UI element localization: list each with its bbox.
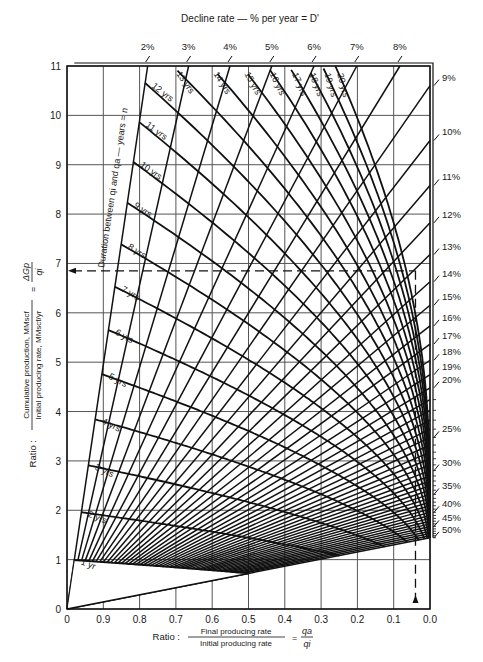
rate-tick (434, 431, 439, 437)
duration-label-12: 12 yrs (150, 81, 176, 104)
y-axis-title-prefix: Ratio : (27, 440, 38, 467)
y-tick-label: 0 (55, 604, 61, 615)
rate-tick (355, 56, 359, 62)
rate-label-50: 50% (442, 524, 462, 535)
rate-label-20: 20% (442, 374, 462, 385)
rate-tick (270, 56, 274, 62)
y-tick-label: 8 (55, 209, 61, 220)
duration-curve-5yr (102, 374, 419, 540)
rate-tick (434, 299, 439, 305)
rate-label-40: 40% (442, 498, 462, 509)
rate-label-18: 18% (442, 346, 462, 357)
rate-tick (434, 179, 439, 185)
y-tick-label: 5 (55, 357, 61, 368)
top-axis-title: Decline rate — % per year = D' (181, 13, 319, 24)
rate-tick (146, 56, 150, 62)
arrow-up-icon (412, 595, 418, 603)
rate-tick (398, 56, 402, 62)
rate-label-19: 19% (442, 361, 462, 372)
rate-label-6: 6% (307, 41, 321, 52)
x-axis-symbol-den: qi (303, 639, 311, 649)
rate-tick (434, 320, 439, 326)
rate-label-5: 5% (265, 41, 279, 52)
x-tick-label: 0.1 (387, 614, 401, 625)
y-tick-label: 9 (55, 160, 61, 171)
rate-label-12: 12% (442, 209, 462, 220)
rate-label-8: 8% (393, 41, 407, 52)
x-tick-label: 0.8 (133, 614, 147, 625)
rate-label-3: 3% (182, 41, 196, 52)
y-axis-symbol-num: ΔGp (21, 263, 31, 282)
duration-curve-12yr (145, 83, 430, 538)
rate-label-17: 17% (442, 330, 462, 341)
duration-curve-4yr (95, 419, 407, 542)
decline-nomograph-chart: 0123456789101100.90.80.70.60.50.40.30.20… (0, 0, 483, 662)
rate-tick (434, 249, 439, 255)
x-tick-label: 0.6 (205, 614, 219, 625)
rate-tick (434, 382, 439, 388)
x-axis-title-denominator: Initial producing rate (200, 639, 273, 648)
x-axis-symbol-num: qa (302, 626, 312, 636)
duration-label-9: 9 yrs (132, 200, 154, 219)
decline-ray-7pct (92, 66, 356, 561)
rate-tick (187, 56, 191, 62)
x-tick-label: 0 (64, 614, 70, 625)
x-tick-label: 0.7 (169, 614, 183, 625)
x-axis-equals: = (292, 633, 297, 643)
y-tick-label: 10 (50, 110, 62, 121)
chart-canvas: 0123456789101100.90.80.70.60.50.40.30.20… (0, 0, 483, 662)
duration-label-11: 11 yrs (144, 120, 170, 143)
rate-tick (434, 338, 439, 344)
y-tick-label: 4 (55, 407, 61, 418)
duration-label-13: 13 yrs (174, 69, 197, 95)
arrow-left-icon (68, 268, 76, 274)
rate-label-4: 4% (223, 41, 237, 52)
rate-label-15: 15% (442, 291, 462, 302)
duration-label-15: 15 yrs (242, 70, 263, 97)
duration-label-14: 14 yrs (211, 70, 233, 97)
rate-tick (434, 488, 439, 494)
x-tick-label: 0.5 (242, 614, 256, 625)
rate-label-9: 9% (442, 72, 456, 83)
rate-label-2: 2% (141, 41, 155, 52)
y-axis-symbol-den: qi (34, 268, 44, 276)
duration-label-10: 10 yrs (138, 159, 164, 182)
decline-ray-2pct (67, 66, 148, 609)
rate-tick (434, 80, 439, 86)
rate-label-7: 7% (350, 41, 364, 52)
rate-label-10: 10% (442, 126, 462, 137)
y-tick-label: 7 (55, 258, 61, 269)
decline-ray-14pct (118, 282, 430, 563)
x-tick-label: 0.2 (350, 614, 364, 625)
duration-label-5: 5 yrs (107, 371, 129, 389)
x-axis-title-prefix: Ratio : (153, 631, 180, 642)
rate-label-25: 25% (442, 423, 462, 434)
rate-label-13: 13% (442, 241, 462, 252)
y-tick-label: 1 (55, 555, 61, 566)
rate-tick (228, 56, 232, 62)
x-tick-label: 0.4 (278, 614, 292, 625)
duration-curve-7yr (115, 287, 427, 539)
y-tick-label: 11 (51, 61, 62, 72)
y-axis-title-denominator: Initial producing rate, MMscf/yr (34, 310, 43, 419)
x-tick-label: 0.0 (423, 614, 437, 625)
rate-label-45: 45% (442, 512, 462, 523)
y-axis-title-numerator: Cumulative production, MMscf (22, 310, 31, 418)
rate-tick (434, 134, 439, 140)
x-tick-label: 0.9 (96, 614, 110, 625)
rate-tick (434, 276, 439, 282)
rate-label-35: 35% (442, 480, 462, 491)
rate-tick (434, 369, 439, 375)
duration-axis-label: Duration between qi and qa — years = n (96, 107, 130, 268)
x-tick-label: 0.3 (314, 614, 328, 625)
decline-rate-scale-bracket (74, 63, 433, 538)
y-axis-title: Ratio :Cumulative production, MMscfIniti… (21, 262, 44, 467)
rate-tick (434, 465, 439, 471)
rate-label-11: 11% (442, 171, 461, 182)
y-tick-label: 2 (55, 505, 61, 516)
rate-label-14: 14% (442, 268, 462, 279)
y-tick-label: 6 (55, 308, 61, 319)
rate-tick (434, 354, 439, 360)
rate-tick (434, 217, 439, 223)
y-axis-equals: = (28, 287, 38, 292)
